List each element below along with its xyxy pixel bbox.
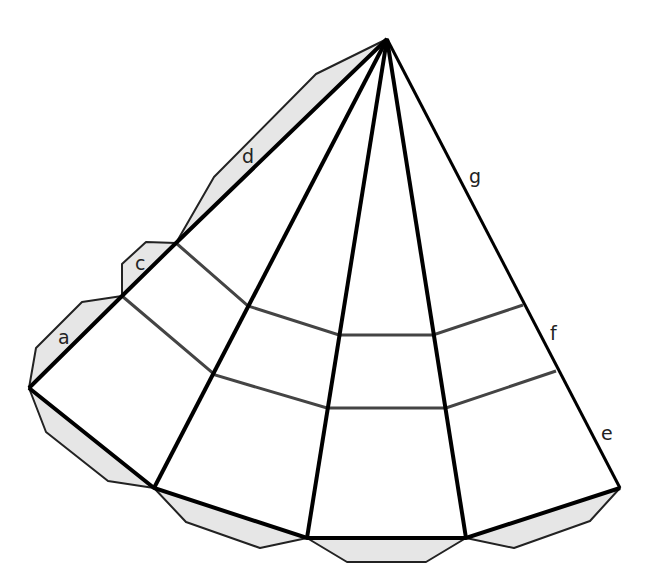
fold-line-lower	[122, 296, 556, 408]
edge-labels: acdgfe	[58, 145, 613, 444]
edge-label-c: c	[135, 252, 145, 274]
tab-bottom-3	[307, 538, 466, 562]
edge-label-f: f	[550, 322, 558, 344]
edge-label-e: e	[601, 422, 613, 444]
edge-label-d: d	[242, 145, 254, 167]
fold-lines	[122, 243, 556, 408]
edge-label-a: a	[58, 326, 70, 348]
pyramid-net-diagram: acdgfe	[0, 0, 648, 583]
left-outer-edge	[29, 39, 387, 388]
edge-label-g: g	[469, 165, 481, 187]
fold-line-upper	[176, 243, 523, 335]
